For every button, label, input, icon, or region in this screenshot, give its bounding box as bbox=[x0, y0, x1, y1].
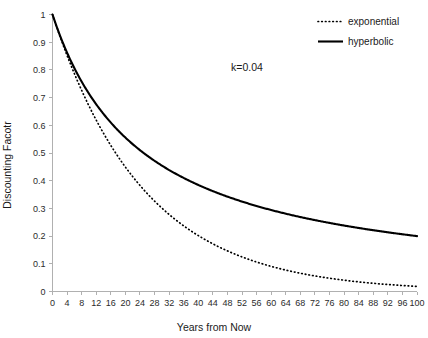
x-tick-label: 64 bbox=[281, 298, 291, 308]
y-tick-label: 1 bbox=[40, 10, 45, 20]
x-tick-label: 24 bbox=[135, 298, 145, 308]
y-tick-label: 0.2 bbox=[33, 231, 46, 241]
x-tick-label: 20 bbox=[120, 298, 130, 308]
series-line-exponential bbox=[53, 15, 418, 287]
legend: exponential hyperbolic bbox=[318, 16, 399, 47]
y-tick-label: 0.7 bbox=[33, 93, 46, 103]
k-value-annotation: k=0.04 bbox=[231, 61, 263, 73]
legend-label-exponential: exponential bbox=[348, 16, 399, 27]
y-tick-label: 0.6 bbox=[33, 121, 46, 131]
y-axis-title: Discounting Facotr bbox=[1, 121, 13, 209]
x-tick-label: 52 bbox=[237, 298, 247, 308]
y-tick-label: 0.8 bbox=[33, 65, 46, 75]
x-tick-label: 72 bbox=[310, 298, 320, 308]
x-tick-label: 40 bbox=[193, 298, 203, 308]
x-tick-label: 48 bbox=[222, 298, 232, 308]
plot-series-group bbox=[53, 15, 418, 287]
x-tick-label: 96 bbox=[397, 298, 407, 308]
x-axis-ticks: 0481216202428323640444852566064687276808… bbox=[50, 292, 425, 308]
x-tick-label: 84 bbox=[354, 298, 364, 308]
y-tick-label: 0.3 bbox=[33, 204, 46, 214]
x-tick-label: 60 bbox=[266, 298, 276, 308]
x-tick-label: 92 bbox=[383, 298, 393, 308]
y-tick-label: 0.1 bbox=[33, 259, 46, 269]
y-axis-ticks: 00.10.20.30.40.50.60.70.80.91 bbox=[33, 10, 53, 297]
x-tick-label: 68 bbox=[295, 298, 305, 308]
x-tick-label: 44 bbox=[208, 298, 218, 308]
x-tick-label: 8 bbox=[79, 298, 84, 308]
x-tick-label: 76 bbox=[325, 298, 335, 308]
series-line-hyperbolic bbox=[53, 15, 418, 237]
legend-label-hyperbolic: hyperbolic bbox=[348, 36, 394, 47]
y-axis-group: 00.10.20.30.40.50.60.70.80.91 bbox=[33, 10, 53, 297]
chart-canvas: 00.10.20.30.40.50.60.70.80.91 0481216202… bbox=[0, 0, 428, 338]
x-tick-label: 80 bbox=[339, 298, 349, 308]
x-tick-label: 28 bbox=[150, 298, 160, 308]
x-axis-title: Years from Now bbox=[177, 321, 252, 333]
x-tick-label: 88 bbox=[368, 298, 378, 308]
discounting-factor-chart: 00.10.20.30.40.50.60.70.80.91 0481216202… bbox=[0, 0, 428, 338]
x-tick-label: 0 bbox=[50, 298, 55, 308]
y-tick-label: 0.5 bbox=[33, 148, 46, 158]
y-tick-label: 0.4 bbox=[33, 176, 46, 186]
y-tick-label: 0.9 bbox=[33, 38, 46, 48]
x-axis-group: 0481216202428323640444852566064687276808… bbox=[50, 292, 425, 308]
x-tick-label: 56 bbox=[252, 298, 262, 308]
x-tick-label: 16 bbox=[106, 298, 116, 308]
x-tick-label: 12 bbox=[91, 298, 101, 308]
x-tick-label: 32 bbox=[164, 298, 174, 308]
x-tick-label: 36 bbox=[179, 298, 189, 308]
x-tick-label: 4 bbox=[65, 298, 70, 308]
y-tick-label: 0 bbox=[40, 287, 45, 297]
x-tick-label: 100 bbox=[409, 298, 424, 308]
